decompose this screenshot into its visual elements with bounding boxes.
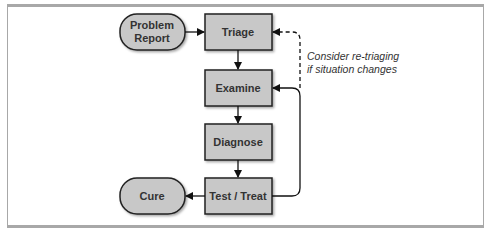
svg-text:Consider re-triaging: Consider re-triaging xyxy=(307,50,399,62)
edges xyxy=(185,32,300,196)
svg-text:Test / Treat: Test / Treat xyxy=(209,190,267,202)
edge-test-loop-to-examine xyxy=(272,88,300,196)
node-triage: Triage xyxy=(205,14,272,50)
node-examine: Examine xyxy=(205,70,272,106)
flowchart: Problem Report Triage Examine Diagnose T… xyxy=(0,0,492,233)
node-diagnose: Diagnose xyxy=(205,124,272,160)
svg-text:Cure: Cure xyxy=(139,190,164,202)
svg-text:Examine: Examine xyxy=(215,82,260,94)
svg-text:Diagnose: Diagnose xyxy=(213,136,263,148)
svg-text:if situation changes: if situation changes xyxy=(307,63,398,75)
node-problem-report: Problem Report xyxy=(120,14,185,50)
svg-text:Report: Report xyxy=(134,32,170,44)
annotation-retriage: Consider re-triaging if situation change… xyxy=(307,50,399,75)
svg-text:Problem: Problem xyxy=(130,19,174,31)
edge-retriage-dashed xyxy=(273,32,300,88)
node-cure: Cure xyxy=(120,178,185,214)
svg-text:Triage: Triage xyxy=(222,26,254,38)
node-test-treat: Test / Treat xyxy=(205,178,272,214)
